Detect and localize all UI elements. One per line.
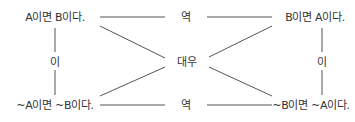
relation-converse-bottom: 역: [181, 99, 191, 112]
diag-bottom-left: [100, 67, 165, 96]
relation-contrapositive: 대우: [177, 56, 196, 69]
relation-inverse-right: 이: [317, 56, 327, 69]
relation-converse-top: 역: [181, 11, 191, 24]
relation-inverse-left: 이: [50, 56, 60, 69]
diag-bottom-right: [209, 67, 272, 96]
node-contrapositive: ~B이면 ~A이다.: [272, 99, 350, 112]
node-inverse: ~A이면 ~B이다.: [16, 99, 94, 112]
diag-top-left: [100, 26, 165, 58]
diag-top-right: [209, 26, 272, 57]
node-original: A이면 B이다.: [25, 11, 85, 24]
node-converse: B이면 A이다.: [285, 11, 345, 24]
